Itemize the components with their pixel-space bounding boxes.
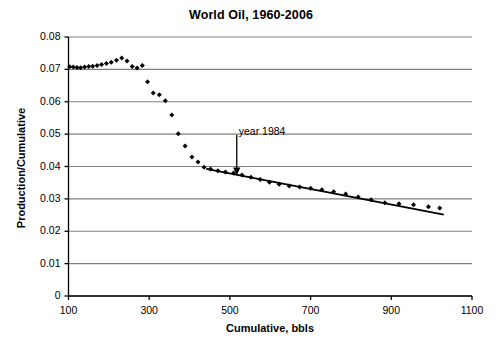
y-tick-label: 0 [17,289,61,301]
x-tick-label: 700 [291,304,331,316]
annotation-arrow-icon [233,135,240,176]
chart-figure: World Oil, 1960-2006 Production/Cumulati… [0,0,502,354]
gridlines [69,37,473,296]
x-tick-label: 500 [210,304,250,316]
x-tick-label: 1100 [452,304,492,316]
plot-area [0,0,502,354]
y-tick-label: 0.07 [17,62,61,74]
y-tick-label: 0.08 [17,30,61,42]
y-tick-label: 0.05 [17,127,61,139]
x-tick-label: 900 [371,304,411,316]
y-tick-label: 0.02 [17,224,61,236]
annotation-label: year 1984 [239,125,286,137]
y-tick-label: 0.04 [17,160,61,172]
x-tick-label: 100 [49,304,89,316]
y-tick-label: 0.03 [17,192,61,204]
trend-line [206,169,444,215]
x-tick-label: 300 [129,304,169,316]
y-tick-label: 0.06 [17,95,61,107]
y-tick-label: 0.01 [17,257,61,269]
